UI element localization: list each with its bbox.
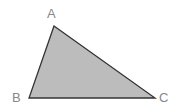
triangle-abc	[29, 26, 155, 98]
triangle-diagram: A B C	[0, 0, 180, 112]
vertex-label-b: B	[12, 91, 21, 104]
triangle-canvas	[0, 0, 180, 112]
vertex-label-a: A	[47, 7, 56, 20]
vertex-label-c: C	[159, 91, 168, 104]
